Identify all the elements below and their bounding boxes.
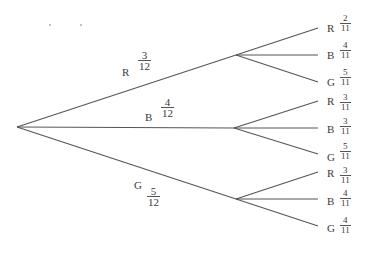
branch-B-R xyxy=(234,101,318,128)
branch-G-R xyxy=(236,172,318,199)
stage2-RB-label: B xyxy=(327,50,334,61)
stage2-GB-fraction: 4 11 xyxy=(340,189,351,208)
stage1-R-label: R xyxy=(122,67,129,78)
stage1-R-fraction: 3 12 xyxy=(138,50,151,71)
stage2-GR-fraction: 3 11 xyxy=(340,166,351,185)
stage2-RR-label: R xyxy=(327,23,334,34)
stage2-RG-label: G xyxy=(327,77,335,88)
stage1-B-label: B xyxy=(145,112,152,123)
branch-R-G xyxy=(236,55,318,82)
stage1-G-fraction: 5 12 xyxy=(147,186,160,207)
stage2-BR-label: R xyxy=(327,96,334,107)
tree-lines xyxy=(0,0,369,256)
stage2-GG-fraction: 4 11 xyxy=(340,216,351,235)
stage2-GB-label: B xyxy=(327,196,334,207)
stage2-BR-fraction: 3 11 xyxy=(340,93,351,112)
stage1-B-fraction: 4 12 xyxy=(161,97,174,118)
stage2-BG-fraction: 5 11 xyxy=(340,142,351,161)
stage2-GR-label: R xyxy=(327,168,334,179)
stage2-RB-fraction: 4 11 xyxy=(340,41,351,60)
branch-G-G xyxy=(236,199,318,226)
branch-B-G xyxy=(234,128,318,154)
stage2-RR-fraction: 2 11 xyxy=(340,14,351,33)
stage2-BB-fraction: 3 11 xyxy=(340,117,351,136)
branch-R-R xyxy=(236,28,318,55)
branch-root-G xyxy=(17,127,236,199)
branch-root-B xyxy=(17,127,234,128)
stage1-G-label: G xyxy=(134,180,142,191)
stage2-RG-fraction: 5 11 xyxy=(340,68,351,87)
stage2-BG-label: G xyxy=(327,152,335,163)
stage2-GG-label: G xyxy=(327,223,335,234)
stage2-BB-label: B xyxy=(327,124,334,135)
